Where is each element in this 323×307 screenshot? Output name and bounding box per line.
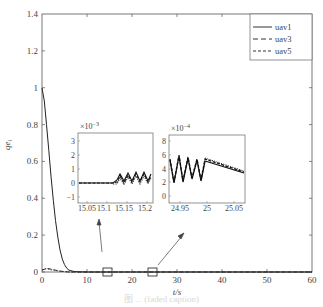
inset-2-y-tick: 8 bbox=[162, 137, 166, 146]
x-tick-label: 0 bbox=[40, 275, 45, 285]
inset-1-y-tick: 3 bbox=[71, 137, 75, 146]
x-tick-label: 10 bbox=[83, 275, 93, 285]
inset-1-y-tick: 0 bbox=[71, 179, 75, 188]
y-tick-label: 0 bbox=[34, 267, 39, 277]
x-tick-label: 60 bbox=[308, 275, 318, 285]
y-tick-label: 0.4 bbox=[27, 193, 39, 203]
inset-2-x-tick: 25 bbox=[203, 204, 211, 213]
inset-2-x-tick: 24.95 bbox=[171, 204, 189, 213]
inset-1-x-tick: 15.1 bbox=[97, 204, 111, 213]
inset-1: ×10−3 3 2 1 0 −1 15.05 15.1 15.15 15.2 bbox=[66, 121, 153, 213]
figure-caption: 图 ... (faded caption) bbox=[0, 292, 323, 305]
inset-1-y-tick: 1 bbox=[71, 165, 75, 174]
inset-1-x-tick: 15.05 bbox=[78, 204, 96, 213]
legend-label: uav1 bbox=[275, 22, 292, 32]
inset-1-frame bbox=[78, 133, 153, 203]
inset-2: ×10−4 8 6 4 2 0 24.95 25 25.05 bbox=[162, 123, 245, 213]
y-tick-label: 0.8 bbox=[27, 120, 39, 130]
y-tick-label: 1.4 bbox=[27, 9, 39, 19]
chart-figure: 0 0.2 0.4 0.6 0.8 1 1.2 1.4 0 10 20 30 4… bbox=[0, 0, 323, 307]
svg-text:qei: qei bbox=[2, 140, 13, 151]
y-axis-label-sub: i bbox=[7, 140, 13, 142]
x-tick-label: 50 bbox=[263, 275, 273, 285]
y-tick-label: 1 bbox=[34, 83, 39, 93]
inset-2-y-tick: 2 bbox=[162, 178, 166, 187]
y-tick-label: 0.2 bbox=[27, 230, 38, 240]
inset-2-x-tick: 25.05 bbox=[225, 204, 243, 213]
inset-2-y-tick: 6 bbox=[162, 151, 166, 160]
inset-2-y-tick: 0 bbox=[162, 192, 166, 201]
inset-1-y-tick: 2 bbox=[71, 151, 75, 160]
inset-1-x-tick: 15.2 bbox=[138, 204, 152, 213]
inset-1-x-tick: 15.15 bbox=[115, 204, 133, 213]
x-tick-label: 30 bbox=[173, 275, 183, 285]
x-tick-label: 20 bbox=[128, 275, 138, 285]
y-axis-label-main: qe bbox=[2, 142, 12, 151]
y-axis-label: qei bbox=[2, 140, 13, 151]
y-tick-label: 1.2 bbox=[27, 46, 38, 56]
legend: uav1 uav3 uav5 bbox=[250, 14, 312, 60]
legend-label: uav5 bbox=[275, 46, 292, 56]
legend-label: uav3 bbox=[275, 34, 292, 44]
inset-1-y-tick: −1 bbox=[66, 193, 75, 202]
x-tick-label: 40 bbox=[218, 275, 228, 285]
y-tick-label: 0.6 bbox=[27, 156, 39, 166]
inset-2-y-tick: 4 bbox=[162, 165, 166, 174]
